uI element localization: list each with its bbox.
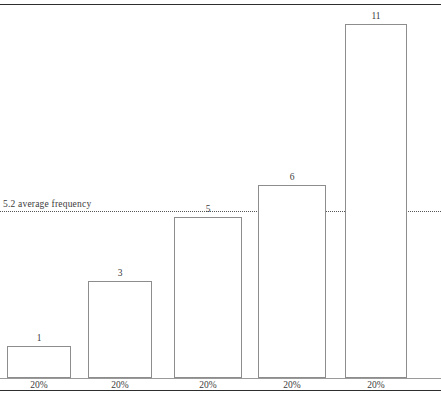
x-axis-tick-label: 20% xyxy=(88,379,152,391)
bar-value-label: 11 xyxy=(345,11,407,22)
bar-value-label: 5 xyxy=(174,204,242,215)
bar xyxy=(7,346,71,378)
x-axis-tick-label: 20% xyxy=(258,379,326,391)
bar xyxy=(88,281,152,378)
clipped-top-caption xyxy=(96,0,346,1)
bar-chart: 5.2 average frequency135611 20%20%20%20%… xyxy=(0,0,441,395)
bar-value-label: 1 xyxy=(7,333,71,344)
bar-value-label: 3 xyxy=(88,268,152,279)
average-frequency-label: 5.2 average frequency xyxy=(3,199,91,210)
x-axis-tick-label: 20% xyxy=(7,379,71,391)
plot-area: 5.2 average frequency135611 xyxy=(0,4,441,378)
x-axis-tick-label: 20% xyxy=(345,379,407,391)
bar xyxy=(258,185,326,378)
bar xyxy=(174,217,242,378)
bar-value-label: 6 xyxy=(258,172,326,183)
x-axis-tick-label: 20% xyxy=(174,379,242,391)
bar xyxy=(345,24,407,378)
